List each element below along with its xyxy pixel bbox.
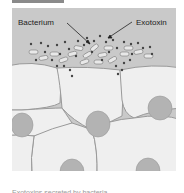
bacterium-label: Bacterium xyxy=(18,19,54,27)
cells-illustration xyxy=(12,8,176,171)
figure-caption: Exotoxins secreted by bacteria xyxy=(12,189,176,193)
nucleus xyxy=(12,113,33,137)
nucleus xyxy=(148,96,172,120)
exotoxin-label: Exotoxin xyxy=(136,19,167,27)
nucleus xyxy=(86,111,110,137)
exotoxin-pointer-line xyxy=(108,22,132,38)
cell-top-left xyxy=(12,63,61,110)
cell-bottom-left xyxy=(12,135,34,171)
figure-header-tab xyxy=(12,0,64,3)
exotoxin-diagram: Bacterium Exotoxin xyxy=(12,8,176,171)
